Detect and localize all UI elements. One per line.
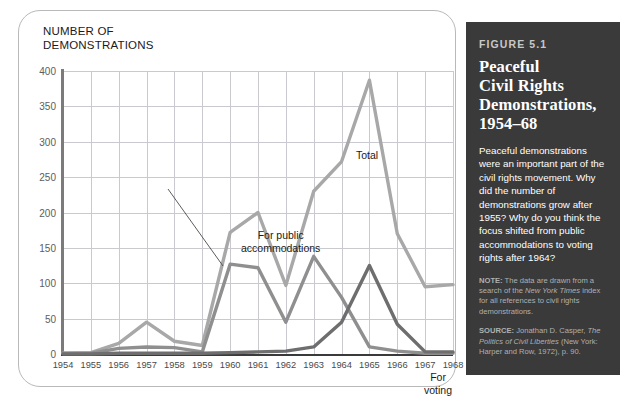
series-line-1 (63, 256, 453, 353)
y-axis-tick-label: 350 (39, 101, 56, 112)
series-line-0 (63, 80, 453, 353)
x-axis-tick-label: 1963 (303, 360, 324, 370)
x-axis-tick-label: 1964 (331, 360, 352, 370)
x-axis-tick-label: 1959 (192, 360, 213, 370)
x-axis-tick-label: 1958 (164, 360, 185, 370)
y-axis-tick-label: 300 (39, 136, 56, 147)
x-axis-tick-label: 1968 (443, 360, 464, 370)
figure-note: NOTE: The data are drawn from a search o… (479, 276, 607, 318)
x-axis-tick-label: 1957 (136, 360, 157, 370)
y-axis-tick-label: 150 (39, 242, 56, 253)
figure-source: SOURCE: Jonathan D. Casper, The Politics… (479, 326, 607, 357)
x-axis-tick-label: 1954 (53, 360, 74, 370)
y-axis-tick-label: 50 (45, 313, 56, 324)
figure-title: Peaceful Civil Rights Demonstrations, 19… (479, 57, 607, 133)
series-label-total: Total (356, 149, 378, 162)
y-axis-tick-label: 200 (39, 207, 56, 218)
leader-line-public-accommodations (168, 189, 223, 266)
gridline-vertical (453, 71, 454, 354)
figure-source-text-1: Jonathan D. Casper, (514, 326, 587, 335)
series-label-public-accommodations: For public accommodations (241, 229, 320, 255)
series-lines (63, 71, 453, 354)
y-axis-tick-label: 250 (39, 172, 56, 183)
y-axis-tick-label: 0 (50, 349, 56, 360)
figure-root: NUMBER OF DEMONSTRATIONS 050100150200250… (0, 0, 620, 397)
chart-card: NUMBER OF DEMONSTRATIONS 050100150200250… (18, 10, 456, 387)
y-axis-tick-label: 100 (39, 278, 56, 289)
x-axis-tick-label: 1965 (359, 360, 380, 370)
figure-info-panel: FIGURE 5.1 Peaceful Civil Rights Demonst… (466, 22, 620, 375)
x-axis-tick-label: 1960 (220, 360, 241, 370)
x-axis-tick-label: 1961 (248, 360, 269, 370)
figure-note-italic: New York Times (525, 286, 580, 295)
series-label-voting: For voting (423, 371, 453, 397)
figure-note-label: NOTE: (479, 276, 503, 285)
y-axis-title: NUMBER OF DEMONSTRATIONS (43, 25, 154, 52)
figure-number: FIGURE 5.1 (479, 38, 607, 50)
plot-area: 050100150200250300350400 195419551956195… (63, 71, 453, 354)
x-axis-tick-label: 1966 (387, 360, 408, 370)
x-axis-tick-label: 1962 (276, 360, 297, 370)
figure-body-text: Peaceful demonstrations were an importan… (479, 144, 607, 265)
y-axis-tick-label: 400 (39, 66, 56, 77)
x-axis-tick-label: 1956 (108, 360, 129, 370)
x-axis-tick-label: 1955 (81, 360, 102, 370)
x-axis-tick-label: 1967 (415, 360, 436, 370)
figure-source-label: SOURCE: (479, 326, 514, 335)
